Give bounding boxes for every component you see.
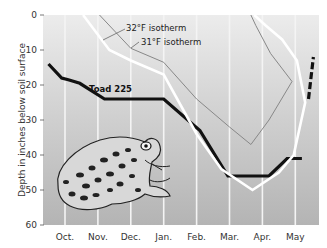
x-axis: Oct.Nov.Dec.Jan.Feb.Mar.Apr.May bbox=[56, 232, 305, 242]
x-tick-label: Jan. bbox=[154, 232, 172, 242]
y-tick-label: 0 bbox=[31, 10, 37, 20]
x-tick-label: Mar. bbox=[220, 232, 239, 242]
depth-chart: 0102030405060 Depth in inches below soil… bbox=[0, 0, 327, 248]
y-tick-label: 20 bbox=[26, 80, 38, 90]
y-tick-label: 30 bbox=[26, 115, 38, 125]
y-tick-label: 60 bbox=[26, 220, 38, 230]
y-tick-label: 40 bbox=[26, 150, 38, 160]
annotation-31f: 31°F isotherm bbox=[131, 37, 201, 48]
x-tick-label: Apr. bbox=[254, 232, 272, 242]
x-tick-label: Oct. bbox=[56, 232, 74, 242]
label-31f-isotherm: 31°F isotherm bbox=[141, 37, 201, 47]
y-tick-label: 10 bbox=[26, 45, 38, 55]
label-toad-225: Toad 225 bbox=[89, 84, 132, 94]
y-tick-label: 50 bbox=[26, 185, 38, 195]
y-axis: 0102030405060 bbox=[26, 10, 44, 230]
x-tick-label: Dec. bbox=[121, 232, 141, 242]
x-tick-label: May bbox=[286, 232, 305, 242]
label-32f-isotherm: 32°F isotherm bbox=[126, 23, 186, 33]
x-tick-label: Nov. bbox=[88, 232, 108, 242]
x-tick-label: Feb. bbox=[187, 232, 206, 242]
y-axis-label: Depth in inches below soil surface bbox=[17, 43, 27, 198]
